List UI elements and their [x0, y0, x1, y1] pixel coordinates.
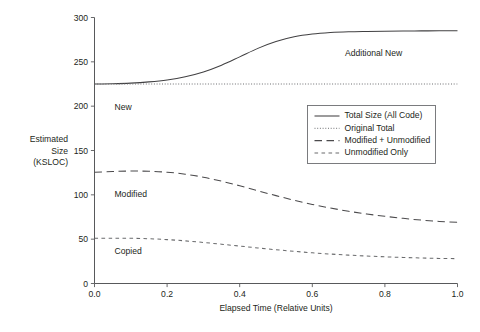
x-axis-title: Elapsed Time (Relative Units) — [219, 303, 332, 313]
y-tick-label: 150 — [74, 146, 89, 156]
y-axis-title-line: Size — [51, 146, 68, 156]
legend-entry-label: Original Total — [345, 123, 395, 133]
estimated-size-line-chart: 050100150200250300 0.00.20.40.60.81.0 Ad… — [0, 0, 480, 332]
y-tick-label: 50 — [78, 234, 88, 244]
y-tick-label: 0 — [83, 279, 88, 289]
x-tick-label: 0.8 — [379, 289, 391, 299]
legend-entry-label: Total Size (All Code) — [345, 110, 423, 120]
x-tick-label: 0.4 — [234, 289, 246, 299]
x-tick-label: 1.0 — [452, 289, 464, 299]
y-axis-title-line: Estimated — [30, 134, 68, 144]
y-tick-label: 300 — [74, 13, 89, 23]
y-tick-label: 100 — [74, 190, 89, 200]
chart-figure: 050100150200250300 0.00.20.40.60.81.0 Ad… — [0, 0, 480, 332]
region-label: Additional New — [345, 48, 403, 58]
x-tick-label: 0.6 — [306, 289, 318, 299]
chart-background — [0, 0, 480, 332]
y-tick-label: 200 — [74, 101, 89, 111]
region-label: Copied — [114, 246, 141, 256]
y-tick-label: 250 — [74, 57, 89, 67]
y-axis-title-line: (KSLOC) — [33, 157, 68, 167]
legend-entry-label: Unmodified Only — [345, 147, 409, 157]
region-label: New — [114, 102, 132, 112]
x-axis-title: Elapsed Time (Relative Units) — [219, 303, 332, 313]
region-label: Modified — [114, 189, 147, 199]
legend-entry-label: Modified + Unmodified — [345, 135, 431, 145]
x-tick-label: 0.0 — [89, 289, 101, 299]
chart-legend: Total Size (All Code)Original TotalModif… — [308, 106, 436, 164]
x-tick-label: 0.2 — [161, 289, 173, 299]
